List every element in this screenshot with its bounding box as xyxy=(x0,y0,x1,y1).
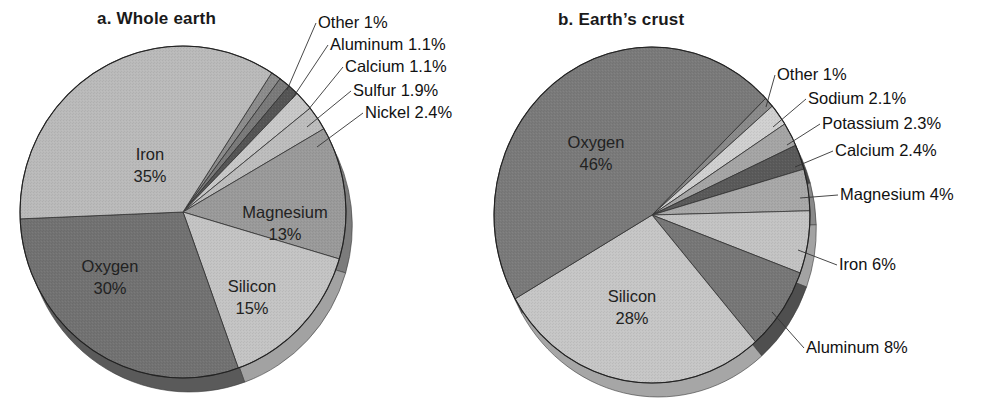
leader-line-other xyxy=(766,75,775,107)
callout-label-magnesium: Magnesium 4% xyxy=(840,185,954,203)
pie-chart-earths-crust: Other 1%Sodium 2.1%Potassium 2.3%Calcium… xyxy=(494,47,954,397)
callout-label-potassium: Potassium 2.3% xyxy=(822,114,942,132)
leader-line-calcium xyxy=(308,67,343,110)
callout-label-calcium: Calcium 2.4% xyxy=(835,141,937,159)
leader-line-sulfur xyxy=(307,91,351,127)
leader-line-other xyxy=(287,23,316,90)
callout-label-iron: Iron 6% xyxy=(839,255,896,273)
callout-label-sulfur: Sulfur 1.9% xyxy=(353,81,439,99)
pie-slices xyxy=(494,47,810,383)
callout-label-calcium: Calcium 1.1% xyxy=(345,57,447,75)
pie-chart-whole-earth: Other 1%Aluminum 1.1%Calcium 1.1%Sulfur … xyxy=(20,13,452,392)
callout-label-aluminum: Aluminum 8% xyxy=(806,338,908,356)
callout-label-other: Other 1% xyxy=(318,13,388,31)
callout-label-other: Other 1% xyxy=(777,65,847,83)
leader-line-potassium xyxy=(787,124,820,145)
leader-line-aluminum xyxy=(292,45,328,99)
callout-label-sodium: Sodium 2.1% xyxy=(808,89,906,107)
callout-label-aluminum: Aluminum 1.1% xyxy=(330,35,446,53)
callout-label-nickel: Nickel 2.4% xyxy=(365,103,452,121)
pie-charts-canvas: Other 1%Aluminum 1.1%Calcium 1.1%Sulfur … xyxy=(0,0,993,413)
